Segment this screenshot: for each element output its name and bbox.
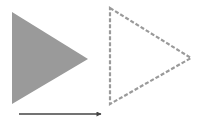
translation-diagram: [0, 0, 204, 131]
original-triangle: [12, 12, 88, 104]
translated-triangle: [110, 8, 191, 104]
